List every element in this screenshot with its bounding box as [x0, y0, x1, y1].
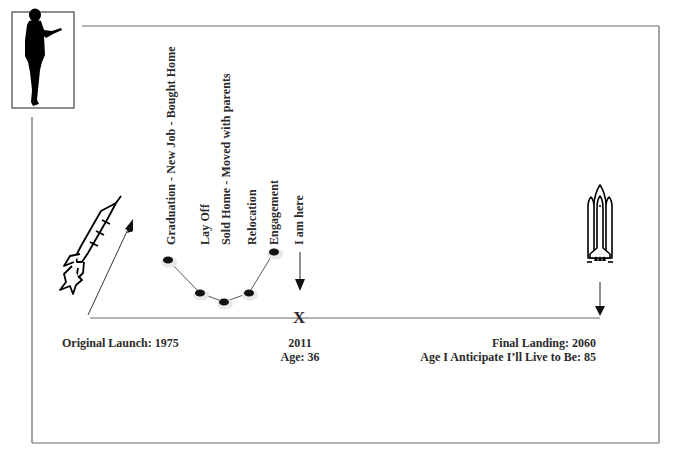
- landing-arrow: [595, 282, 605, 316]
- diagram-canvas: [0, 0, 674, 462]
- anticipated-age-label: Age I Anticipate I’ll Live to Be: 85: [380, 350, 596, 365]
- event-label-sold-home: Sold Home - Moved with parents: [219, 73, 234, 245]
- event-bullet[interactable]: [242, 289, 258, 300]
- event-bullet[interactable]: [267, 248, 283, 259]
- landing-label: Final Landing: 2060: [380, 336, 596, 351]
- space-shuttle-icon: [587, 185, 613, 262]
- event-bullets: [161, 248, 283, 309]
- current-position-marker: X: [293, 308, 305, 328]
- launch-label: Original Launch: 1975: [62, 336, 179, 351]
- event-label-relocation: Relocation: [245, 189, 260, 245]
- presenter-silhouette-icon: [12, 9, 74, 109]
- event-bullet[interactable]: [161, 256, 177, 267]
- current-year: 2011: [270, 336, 330, 351]
- i-am-here-arrow: [295, 252, 305, 291]
- rocket-icon: [60, 196, 121, 294]
- event-curve: [168, 252, 274, 302]
- event-label-lay-off: Lay Off: [198, 204, 213, 245]
- event-label-engagement: Engagement: [267, 180, 282, 245]
- current-age: Age: 36: [270, 350, 330, 365]
- i-am-here-label: I am here: [292, 195, 307, 245]
- event-bullet[interactable]: [193, 289, 209, 300]
- event-label-graduation: Graduation - New Job - Bought Home: [164, 46, 179, 245]
